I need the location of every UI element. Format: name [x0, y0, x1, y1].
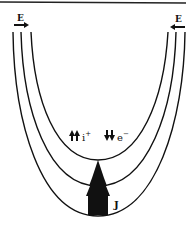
field-label-right: E [175, 14, 182, 24]
inner-field-line [31, 32, 168, 160]
field-label-left: E [17, 13, 24, 23]
field-line-diagram: E E i+ e− J [0, 0, 196, 225]
arrow-left-icon [170, 24, 185, 30]
ion-up-arrows-icon [69, 130, 80, 141]
ion-label: i+ [82, 130, 91, 143]
current-label: J [113, 199, 119, 210]
top-border-line [0, 2, 186, 3]
electron-down-arrows-icon [104, 130, 115, 141]
current-arrow-icon [86, 160, 110, 215]
electron-label: e− [117, 130, 129, 143]
